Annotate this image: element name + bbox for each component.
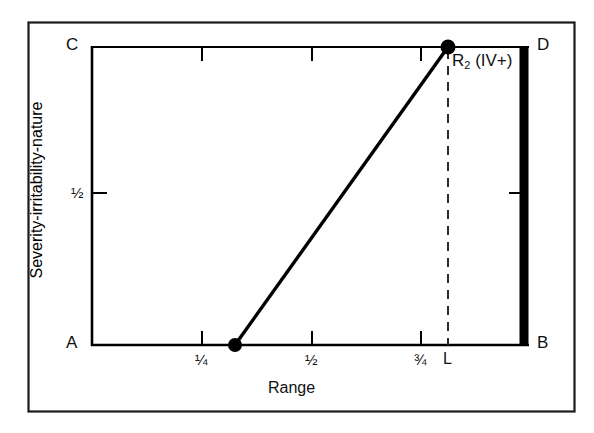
annotation-r2-iv-plus: R2 (IV+) bbox=[452, 52, 512, 71]
corner-label-bottom-left: A bbox=[66, 334, 77, 351]
outer-frame bbox=[29, 23, 575, 412]
y-axis-title: Severity-irritability-nature bbox=[28, 102, 46, 279]
x-tick-label-L: L bbox=[443, 351, 452, 367]
figure-container: C A D B ¼ ½ ¾ L ½ Range Severity-irritab… bbox=[0, 0, 594, 433]
x-axis-title: Range bbox=[268, 380, 315, 396]
data-point-lower bbox=[228, 338, 242, 352]
y-axis-title-wrapper: Severity-irritability-nature bbox=[24, 60, 50, 320]
y-tick-label-half: ½ bbox=[71, 185, 84, 200]
x-tick-label-half: ½ bbox=[305, 352, 318, 367]
data-line-r2 bbox=[235, 47, 448, 345]
corner-label-top-right: D bbox=[537, 36, 549, 53]
corner-label-bottom-right: B bbox=[537, 334, 548, 351]
x-tick-label-quarter: ¼ bbox=[195, 352, 208, 367]
x-tick-label-three-quarter: ¾ bbox=[414, 352, 427, 367]
annotation-base: R bbox=[452, 51, 464, 70]
annotation-tail: (IV+) bbox=[470, 51, 512, 70]
corner-label-top-left: C bbox=[66, 36, 78, 53]
